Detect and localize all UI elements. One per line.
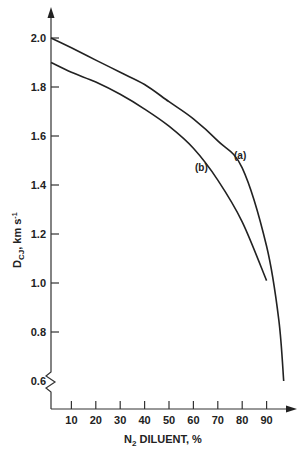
y-tick-label: 0.6 xyxy=(31,375,46,387)
x-axis-arrow-icon xyxy=(286,406,297,413)
y-tick-label: 1.4 xyxy=(31,179,47,191)
y-tick-label: 1.0 xyxy=(31,277,46,289)
x-tick-label: 10 xyxy=(65,414,77,426)
x-tick-label: 80 xyxy=(236,414,248,426)
y-tick-label: 1.8 xyxy=(31,81,46,93)
x-tick-label: 90 xyxy=(260,414,272,426)
x-tick-label: 40 xyxy=(138,414,150,426)
axes xyxy=(46,7,297,413)
y-axis-line xyxy=(46,16,55,409)
x-tick-label: 50 xyxy=(163,414,175,426)
y-tick-label: 1.6 xyxy=(31,130,46,142)
series-b-label: (b) xyxy=(195,162,208,173)
y-tick-label: 2.0 xyxy=(31,32,46,44)
series-a-label: (a) xyxy=(234,150,246,161)
x-tick-label: 20 xyxy=(90,414,102,426)
x-tick-label: 60 xyxy=(187,414,199,426)
y-axis-title: DCJ, km s-1 xyxy=(11,212,26,268)
curves xyxy=(51,38,284,381)
x-ticks: 102030405060708090 xyxy=(65,401,272,426)
curve-a xyxy=(51,38,284,381)
x-axis-title: N2 DILUENT, % xyxy=(124,433,202,448)
y-axis-arrow-icon xyxy=(48,7,55,18)
x-tick-label: 30 xyxy=(114,414,126,426)
x-tick-label: 70 xyxy=(212,414,224,426)
y-tick-label: 1.2 xyxy=(31,228,46,240)
y-ticks: 0.60.81.01.21.41.61.82.0 xyxy=(31,32,59,387)
chart: 0.60.81.01.21.41.61.82.0 102030405060708… xyxy=(0,0,303,452)
y-tick-label: 0.8 xyxy=(31,326,46,338)
